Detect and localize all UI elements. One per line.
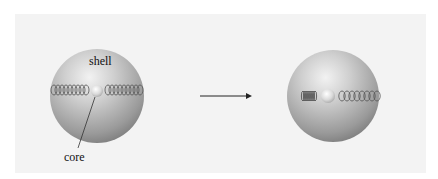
core-sphere <box>91 85 103 97</box>
core-sphere-displaced <box>321 89 335 103</box>
right-arrow-icon <box>200 93 252 99</box>
shell-core-model-after <box>287 50 380 142</box>
core-label: core <box>64 151 85 163</box>
shell-label: shell <box>89 55 112 67</box>
